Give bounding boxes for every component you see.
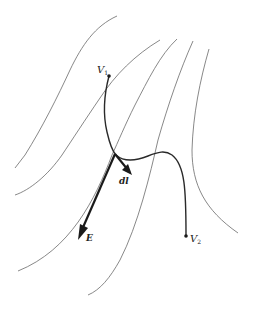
v2-label: V2 (190, 233, 201, 245)
field-line-4 (88, 41, 193, 295)
e-vector (81, 154, 115, 232)
e-label: E (85, 233, 93, 243)
field-diagram: V1 V2 E dl (0, 0, 255, 310)
field-line-5 (192, 49, 238, 233)
v2-point (184, 234, 188, 238)
dl-label: dl (119, 176, 129, 186)
field-line-1 (15, 16, 117, 168)
v1-label: V1 (97, 64, 108, 76)
field-line-2 (15, 40, 160, 195)
